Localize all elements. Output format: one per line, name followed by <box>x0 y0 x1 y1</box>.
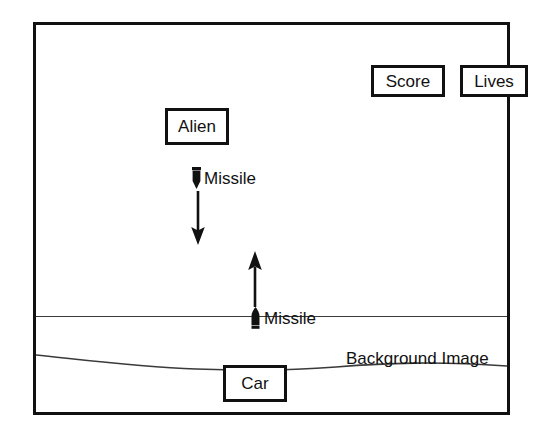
missile-up-label: Missile <box>264 310 316 327</box>
missile-down-icon <box>191 167 202 189</box>
car-box-label: Car <box>241 375 268 392</box>
car-box[interactable]: Car <box>223 365 287 402</box>
score-box-label: Score <box>386 73 430 90</box>
arrow-down-icon <box>188 191 208 245</box>
alien-box[interactable]: Alien <box>165 108 229 145</box>
arrow-up-icon <box>245 251 265 307</box>
alien-box-label: Alien <box>178 118 216 135</box>
missile-down-label: Missile <box>204 170 256 187</box>
game-screen-frame: Score Lives Alien Missile <box>33 22 510 415</box>
lives-box-label: Lives <box>474 73 514 90</box>
diagram-canvas: Score Lives Alien Missile <box>0 0 539 438</box>
missile-up-icon <box>250 307 261 329</box>
score-box[interactable]: Score <box>371 65 445 97</box>
background-image-label: Background Image <box>346 350 489 367</box>
lives-box[interactable]: Lives <box>460 65 528 97</box>
